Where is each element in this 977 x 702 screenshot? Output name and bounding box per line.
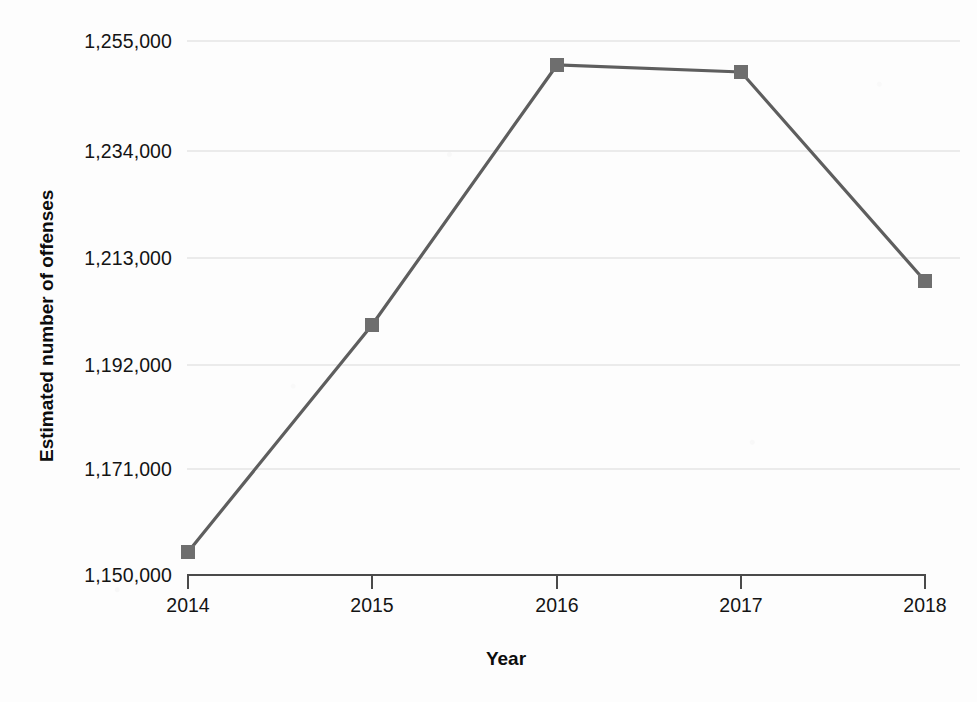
- x-axis-line: [187, 575, 926, 589]
- data-markers: [181, 58, 932, 559]
- y-axis-title: Estimated number of offenses: [36, 190, 58, 462]
- xtick-label-2015: 2015: [322, 594, 422, 617]
- xtick-label-2017: 2017: [691, 594, 791, 617]
- data-point-2016: [550, 58, 564, 72]
- chart-page: 1,255,000 1,234,000 1,213,000 1,192,000 …: [0, 0, 977, 702]
- data-point-2015: [365, 318, 379, 332]
- ytick-label-1255000: 1,255,000: [16, 30, 172, 53]
- ytick-label-1234000: 1,234,000: [16, 140, 172, 163]
- x-axis-title: Year: [456, 648, 556, 670]
- data-line-offenses: [188, 65, 925, 552]
- xtick-label-2018: 2018: [875, 594, 975, 617]
- data-point-2014: [181, 545, 195, 559]
- ytick-label-1150000: 1,150,000: [16, 564, 172, 587]
- data-point-2017: [734, 65, 748, 79]
- gridlines: [187, 41, 960, 469]
- data-point-2018: [918, 274, 932, 288]
- xtick-label-2014: 2014: [138, 594, 238, 617]
- xtick-label-2016: 2016: [507, 594, 607, 617]
